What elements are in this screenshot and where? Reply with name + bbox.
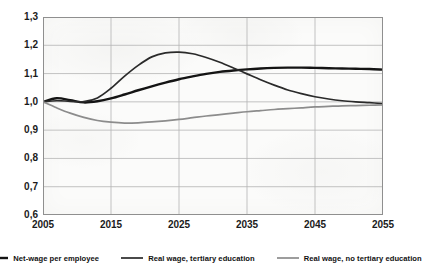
plot-area: [43, 17, 383, 215]
y-tick-label: 1,3: [4, 12, 38, 22]
y-tick-label: 0,8: [4, 153, 38, 163]
series-lines: [43, 52, 383, 123]
y-tick-label: 0,7: [4, 182, 38, 192]
legend-line-swatch: [0, 255, 8, 261]
y-tick-label: 1,1: [4, 69, 38, 79]
x-tick-label: 2025: [168, 220, 190, 230]
plot-lines: [43, 17, 383, 215]
x-tick-label: 2055: [372, 220, 394, 230]
series-line-1: [43, 52, 383, 104]
x-tick-label: 2005: [32, 220, 54, 230]
x-tick-label: 2045: [304, 220, 326, 230]
legend-line-swatch: [277, 255, 299, 261]
y-tick-label: 0,9: [4, 125, 38, 135]
legend-label: Real wage, tertiary education: [148, 254, 255, 263]
x-tick-label: 2015: [100, 220, 122, 230]
series-line-0: [43, 68, 383, 103]
chart-legend: Net-wage per employeeReal wage, tertiary…: [0, 250, 408, 266]
y-tick-label: 1,2: [4, 40, 38, 50]
legend-line-swatch: [121, 255, 143, 261]
legend-item: Real wage, tertiary education: [121, 254, 255, 263]
legend-item: Real wage, no tertiary education: [277, 254, 422, 263]
x-tick-label: 2035: [236, 220, 258, 230]
x-axis: 200520152025203520452055: [43, 220, 383, 234]
legend-item: Net-wage per employee: [0, 254, 99, 263]
series-line-2: [43, 102, 383, 123]
y-tick-label: 1,0: [4, 97, 38, 107]
y-axis: 1,31,21,11,00,90,80,70,6: [0, 17, 38, 215]
legend-label: Real wage, no tertiary education: [304, 254, 422, 263]
legend-label: Net-wage per employee: [13, 254, 99, 263]
